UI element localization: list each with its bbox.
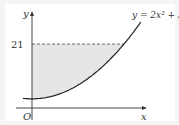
equation-label: y = 2x² + 3 <box>131 10 179 20</box>
shaded-region <box>32 44 124 99</box>
y-axis-arrow <box>30 11 34 16</box>
y-axis-label: y <box>22 8 29 19</box>
y-marker-label: 21 <box>11 39 24 50</box>
x-axis-label: x <box>141 111 147 122</box>
x-axis-arrow <box>142 106 147 110</box>
graph: y x O 21 y = 2x² + 3 <box>0 0 179 125</box>
origin-label: O <box>23 111 31 122</box>
